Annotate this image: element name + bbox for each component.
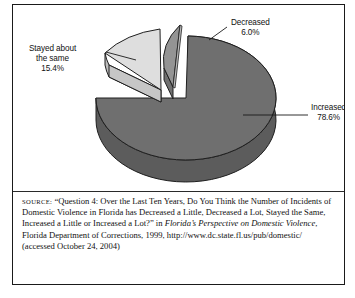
slice-label-increased-value: 78.6% bbox=[311, 113, 344, 123]
slice-label-increased-name: Increased bbox=[311, 103, 344, 113]
source-publication-title: Florida’s Perspective on Domestic Violen… bbox=[165, 218, 316, 228]
source-keyword: Source: bbox=[22, 198, 52, 205]
slice-label-stayed: Stayed about the same 15.4% bbox=[29, 44, 76, 73]
slice-label-stayed-name1: Stayed about bbox=[29, 44, 76, 54]
pie-chart-svg bbox=[13, 5, 344, 191]
figure-frame: Decreased 6.0% Stayed about the same 15.… bbox=[12, 4, 345, 285]
source-caption: Source: “Question 4: Over the Last Ten Y… bbox=[22, 196, 336, 252]
leader-line-decreased bbox=[209, 27, 227, 40]
pie-chart: Decreased 6.0% Stayed about the same 15.… bbox=[13, 5, 344, 191]
slice-label-decreased-value: 6.0% bbox=[231, 28, 270, 38]
pie-slice-stayed[interactable] bbox=[105, 29, 161, 102]
slice-label-increased: Increased 78.6% bbox=[311, 103, 344, 123]
pie-slice-decreased[interactable] bbox=[163, 25, 182, 99]
slice-label-stayed-value: 15.4% bbox=[29, 64, 76, 74]
source-separator bbox=[13, 191, 344, 192]
slice-label-decreased: Decreased 6.0% bbox=[231, 18, 270, 38]
slice-label-decreased-name: Decreased bbox=[231, 18, 270, 28]
slice-label-stayed-name2: the same bbox=[29, 54, 76, 64]
